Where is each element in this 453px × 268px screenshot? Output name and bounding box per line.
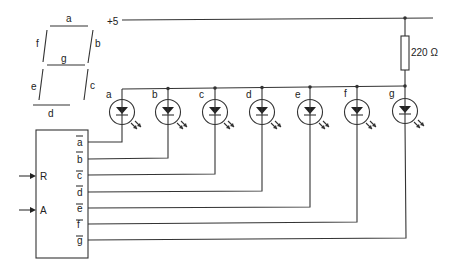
segment-label-e: e (31, 81, 37, 92)
segment-f (43, 30, 47, 62)
wire-f (88, 124, 357, 224)
output-label-b: b (77, 154, 83, 165)
segment-label-a: a (66, 13, 72, 24)
wire-e (88, 124, 310, 208)
output-label-e: e (77, 203, 83, 214)
light-emission-icon (271, 121, 281, 129)
led-d: d (246, 87, 281, 129)
seven-segment-display: a b c d e f g (31, 13, 101, 119)
led-b: b (152, 88, 187, 129)
arrow-right-icon (30, 173, 36, 179)
segment-label-g: g (61, 53, 67, 64)
output-wires (88, 123, 406, 240)
supply-rail (122, 18, 433, 20)
wire-d (88, 124, 262, 192)
led-label-c: c (199, 89, 204, 100)
resistor-label: 220 Ω (411, 47, 438, 58)
led-label-d: d (246, 89, 252, 100)
segment-b (88, 30, 93, 63)
resistor (401, 36, 409, 70)
arrow-right-icon (30, 207, 36, 213)
led-label-a: a (106, 89, 112, 100)
led-f: f (344, 86, 376, 129)
led-a: a (106, 89, 141, 129)
wire-c (88, 124, 215, 175)
output-label-d: d (77, 187, 83, 198)
led-label-g: g (389, 88, 395, 99)
led-g: g (389, 86, 424, 128)
input-a: A (19, 205, 47, 216)
output-label-g: g (77, 235, 83, 246)
segment-c (84, 69, 88, 100)
wire-a (88, 124, 122, 142)
output-label-c: c (77, 170, 82, 181)
light-emission-icon (319, 121, 329, 129)
segment-label-d: d (48, 108, 54, 119)
output-label-f: f (77, 219, 80, 230)
light-emission-icon (414, 120, 424, 128)
light-emission-icon (177, 121, 187, 129)
light-emission-icon (366, 121, 376, 129)
output-label-a: a (77, 137, 83, 148)
light-emission-icon (224, 121, 234, 129)
led-e: e (295, 87, 329, 129)
led-label-b: b (152, 89, 158, 100)
supply-label: +5 (107, 16, 119, 27)
input-label-r: R (40, 171, 47, 182)
led-c: c (199, 88, 234, 129)
input-label-a: A (40, 205, 47, 216)
segment-e (39, 69, 43, 100)
light-emission-icon (131, 121, 141, 129)
input-r: R (19, 171, 47, 182)
segment-label-b: b (95, 38, 101, 49)
segment-label-c: c (90, 80, 95, 91)
segment-label-f: f (36, 38, 39, 49)
led-label-e: e (295, 89, 301, 100)
led-label-f: f (344, 88, 347, 99)
circuit-diagram: a b c d e f g +5 220 Ω a (0, 0, 453, 268)
